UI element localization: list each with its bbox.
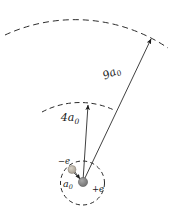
label-9a0: 9a0	[100, 63, 123, 84]
svg-text:a0: a0	[63, 178, 73, 191]
bohr-model-diagram: 9a0 4a0 a0 −e +e	[0, 0, 171, 214]
diagram-canvas: 9a0 4a0 a0 −e +e	[0, 0, 171, 214]
svg-text:4a0: 4a0	[60, 111, 80, 126]
electron-particle	[68, 166, 76, 174]
orbit-arc-9a0	[5, 20, 168, 48]
label-4a0: 4a0	[60, 111, 80, 126]
label-a0-subscript: 0	[69, 183, 73, 191]
label-electron-charge: −e	[58, 156, 70, 166]
nucleus-particle	[78, 177, 87, 186]
label-4a0-coefficient: 4	[60, 111, 68, 124]
orbit-arc-4a0	[42, 103, 114, 112]
label-4a0-subscript: 0	[74, 117, 79, 126]
label-nucleus-charge: +e	[92, 184, 104, 194]
svg-text:9a0: 9a0	[100, 63, 123, 84]
radius-arrow-4a0	[83, 105, 88, 181]
radius-arrow-9a0	[84, 39, 151, 180]
label-a0: a0	[63, 178, 73, 191]
